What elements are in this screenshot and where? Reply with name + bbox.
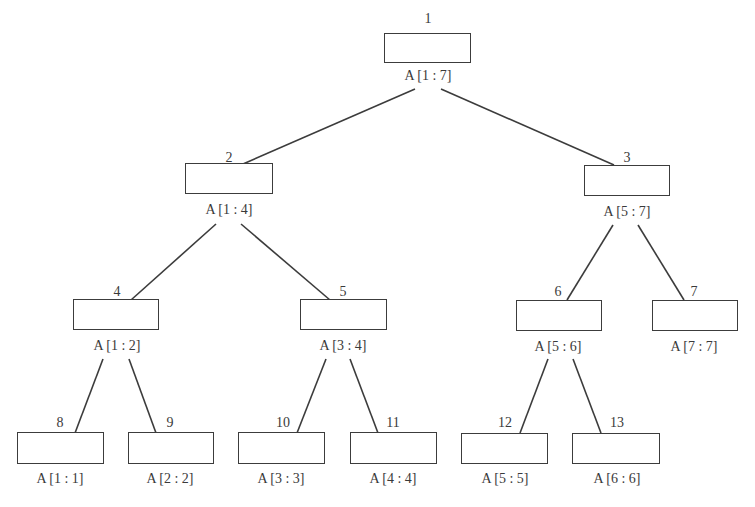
node-box bbox=[461, 433, 548, 464]
node-range-label: A [1 : 2] bbox=[67, 339, 167, 353]
node-range-label: A [5 : 7] bbox=[577, 205, 677, 219]
node-range-label: A [5 : 5] bbox=[455, 472, 555, 486]
node-box bbox=[584, 165, 670, 196]
node-range-label: A [3 : 3] bbox=[231, 472, 331, 486]
node-index: 4 bbox=[97, 285, 137, 299]
node-index: 8 bbox=[40, 416, 80, 430]
edge-2-5 bbox=[241, 224, 330, 300]
node-range-label: A [6 : 6] bbox=[567, 472, 667, 486]
node-range-label: A [1 : 7] bbox=[378, 69, 478, 83]
node-index: 3 bbox=[607, 151, 647, 165]
node-index: 9 bbox=[150, 416, 190, 430]
node-index: 1 bbox=[408, 12, 448, 26]
node-range-label: A [1 : 4] bbox=[179, 203, 279, 217]
node-box bbox=[17, 432, 104, 464]
edge-1-2 bbox=[243, 89, 415, 164]
node-box bbox=[516, 300, 602, 331]
node-range-label: A [5 : 6] bbox=[508, 340, 608, 354]
node-box bbox=[300, 299, 387, 330]
node-box bbox=[384, 33, 471, 63]
node-index: 6 bbox=[538, 285, 578, 299]
node-box bbox=[185, 163, 273, 194]
node-box bbox=[73, 299, 159, 330]
node-range-label: A [1 : 1] bbox=[10, 472, 110, 486]
node-index: 7 bbox=[674, 285, 714, 299]
node-index: 5 bbox=[323, 285, 363, 299]
node-index: 10 bbox=[263, 416, 303, 430]
node-index: 13 bbox=[597, 416, 637, 430]
node-index: 12 bbox=[485, 416, 525, 430]
edge-1-3 bbox=[441, 89, 614, 165]
node-box bbox=[128, 432, 214, 464]
node-range-label: A [4 : 4] bbox=[343, 472, 443, 486]
node-range-label: A [2 : 2] bbox=[120, 472, 220, 486]
node-box bbox=[350, 432, 437, 464]
node-box bbox=[572, 433, 660, 464]
node-box bbox=[652, 300, 738, 331]
node-range-label: A [3 : 4] bbox=[293, 339, 393, 353]
node-range-label: A [7 : 7] bbox=[644, 340, 744, 354]
edge-2-4 bbox=[131, 224, 216, 300]
node-index: 11 bbox=[373, 416, 413, 430]
node-box bbox=[238, 432, 325, 464]
